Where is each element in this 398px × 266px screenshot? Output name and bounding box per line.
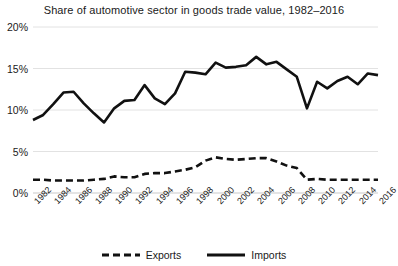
y-axis-tick-label: 20%	[0, 21, 28, 33]
gridlines	[33, 27, 378, 193]
series-lines	[33, 57, 378, 181]
y-axis-tick-label: 0%	[0, 187, 28, 199]
legend-item-imports[interactable]: Imports	[207, 250, 286, 261]
y-axis-tick-label: 5%	[0, 146, 28, 158]
y-axis-tick-label: 10%	[0, 104, 28, 116]
legend-label: Imports	[251, 250, 286, 261]
chart-legend: ExportsImports	[0, 250, 388, 261]
legend-item-exports[interactable]: Exports	[102, 250, 182, 261]
legend-swatch-dashed	[102, 250, 140, 260]
series-line-imports	[33, 57, 378, 123]
series-line-exports	[33, 157, 378, 180]
legend-label: Exports	[146, 250, 182, 261]
legend-swatch-solid	[207, 250, 245, 260]
y-axis-tick-label: 15%	[0, 63, 28, 75]
